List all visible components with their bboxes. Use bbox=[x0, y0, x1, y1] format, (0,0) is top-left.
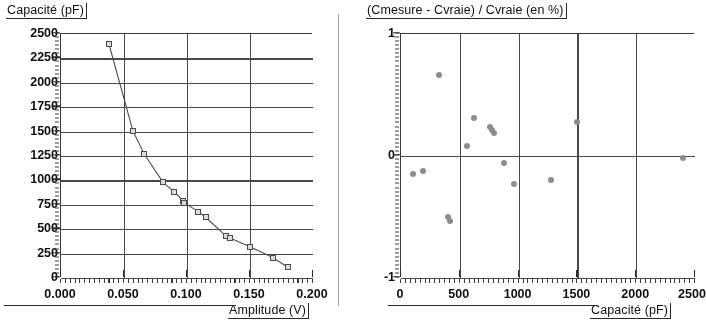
data-point-marker bbox=[227, 235, 233, 241]
y-minor-tick bbox=[55, 224, 59, 225]
y-minor-tick bbox=[395, 142, 399, 143]
y-minor-tick bbox=[395, 110, 399, 111]
y-minor-tick bbox=[55, 240, 59, 241]
x-tick-label: 0.150 bbox=[233, 288, 264, 300]
y-minor-tick bbox=[55, 146, 59, 147]
y-minor-tick bbox=[395, 126, 399, 127]
x-minor-tick bbox=[113, 279, 114, 283]
x-minor-tick bbox=[567, 279, 568, 283]
x-minor-tick bbox=[474, 279, 475, 283]
y-tick-label: -1 bbox=[373, 271, 395, 283]
y-tick-label: 250 bbox=[10, 247, 58, 259]
y-minor-tick bbox=[395, 203, 399, 204]
y-minor-tick bbox=[395, 211, 399, 212]
data-point-marker bbox=[491, 130, 497, 136]
x-minor-tick bbox=[254, 279, 255, 283]
data-point-marker bbox=[203, 214, 209, 220]
x-tick-label: 0.200 bbox=[296, 288, 327, 300]
data-point-marker bbox=[285, 264, 291, 270]
x-tick-mark bbox=[312, 270, 313, 277]
x-minor-tick bbox=[689, 279, 690, 283]
y-minor-tick bbox=[395, 37, 399, 38]
y-minor-tick bbox=[55, 73, 59, 74]
data-point-marker bbox=[511, 181, 517, 187]
y-minor-tick bbox=[55, 130, 59, 131]
x-minor-tick bbox=[425, 279, 426, 283]
y-minor-tick bbox=[395, 252, 399, 253]
y-minor-tick bbox=[55, 216, 59, 217]
x-minor-tick bbox=[181, 279, 182, 283]
y-minor-tick bbox=[395, 155, 399, 156]
y-minor-tick bbox=[55, 228, 59, 229]
x-tick-label: 0 bbox=[397, 288, 404, 300]
y-minor-tick bbox=[395, 65, 399, 66]
x-tick-mark bbox=[400, 270, 401, 277]
y-minor-tick bbox=[55, 45, 59, 46]
figure-capacite-vs-amplitude: Capacité (pF) 2500 2250 2000 1750 1500 1… bbox=[0, 0, 350, 326]
x-minor-tick bbox=[576, 279, 577, 283]
x-minor-tick bbox=[493, 279, 494, 283]
y-minor-tick bbox=[395, 264, 399, 265]
y-minor-tick bbox=[395, 45, 399, 46]
y-minor-tick bbox=[55, 89, 59, 90]
y-minor-tick bbox=[55, 65, 59, 66]
data-point-marker bbox=[464, 143, 470, 149]
x-tick-mark bbox=[459, 270, 460, 277]
y-minor-tick bbox=[395, 224, 399, 225]
y-minor-tick bbox=[55, 138, 59, 139]
y-minor-tick bbox=[55, 57, 59, 58]
y-minor-tick bbox=[395, 171, 399, 172]
x-minor-tick bbox=[694, 279, 695, 283]
x-minor-tick bbox=[572, 279, 573, 283]
x-minor-tick bbox=[518, 279, 519, 283]
y-minor-tick bbox=[395, 228, 399, 229]
y-minor-tick bbox=[395, 183, 399, 184]
y-minor-tick bbox=[55, 195, 59, 196]
y-minor-tick bbox=[55, 142, 59, 143]
x-minor-tick bbox=[454, 279, 455, 283]
data-point-marker bbox=[181, 200, 187, 206]
y-minor-tick bbox=[55, 155, 59, 156]
x-tick-mark bbox=[123, 270, 124, 277]
x-minor-tick bbox=[508, 279, 509, 283]
x-minor-tick bbox=[259, 279, 260, 283]
y-tick-label: 2000 bbox=[10, 76, 58, 88]
y-tick-label: 1250 bbox=[10, 149, 58, 161]
x-minor-tick bbox=[503, 279, 504, 283]
y-tick-label: 1750 bbox=[10, 100, 58, 112]
y-minor-tick bbox=[55, 122, 59, 123]
x-minor-tick bbox=[650, 279, 651, 283]
y-tick-label: 750 bbox=[10, 198, 58, 210]
x-minor-tick bbox=[429, 279, 430, 283]
x-minor-tick bbox=[488, 279, 489, 283]
y-minor-tick bbox=[395, 122, 399, 123]
y-minor-tick bbox=[55, 114, 59, 115]
y-minor-tick bbox=[55, 207, 59, 208]
y-minor-tick bbox=[55, 171, 59, 172]
x-tick-label: 1500 bbox=[562, 288, 590, 300]
x-minor-tick bbox=[205, 279, 206, 283]
x-minor-tick bbox=[147, 279, 148, 283]
x-minor-tick bbox=[239, 279, 240, 283]
y-minor-tick bbox=[395, 216, 399, 217]
y-minor-tick bbox=[395, 73, 399, 74]
y-minor-tick bbox=[55, 232, 59, 233]
y-minor-tick bbox=[395, 85, 399, 86]
data-point-marker bbox=[436, 72, 442, 78]
y-tick-label: 1 bbox=[373, 27, 395, 39]
x-minor-tick bbox=[288, 279, 289, 283]
y-minor-tick bbox=[55, 53, 59, 54]
y-minor-tick bbox=[395, 98, 399, 99]
y-minor-tick bbox=[395, 118, 399, 119]
right-chart-plot-area bbox=[400, 33, 694, 277]
x-minor-tick bbox=[108, 279, 109, 283]
y-minor-tick bbox=[395, 89, 399, 90]
y-minor-tick bbox=[55, 94, 59, 95]
x-minor-tick bbox=[478, 279, 479, 283]
y-minor-tick bbox=[55, 85, 59, 86]
x-minor-tick bbox=[449, 279, 450, 283]
x-minor-tick bbox=[665, 279, 666, 283]
x-minor-tick bbox=[537, 279, 538, 283]
x-minor-tick bbox=[220, 279, 221, 283]
y-minor-tick bbox=[395, 179, 399, 180]
